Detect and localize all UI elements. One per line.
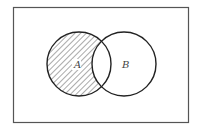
venn-diagram: A B — [0, 0, 201, 133]
set-b-label: B — [121, 59, 129, 70]
set-a-label: A — [73, 59, 81, 70]
